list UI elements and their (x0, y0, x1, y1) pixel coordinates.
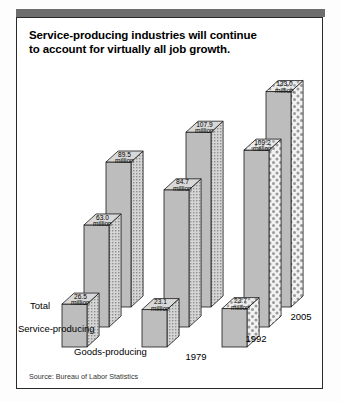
year-label-1992: 1992 (245, 333, 266, 344)
bar-unit-label: million (195, 127, 214, 134)
bar-front-face (142, 310, 167, 347)
bar-unit-label: million (93, 220, 112, 227)
bar-side-face (269, 139, 281, 327)
source-note: Source: Bureau of Labor Statistics (29, 372, 138, 381)
chart-page: Service-producing industries will contin… (0, 0, 341, 402)
bar-unit-label: million (275, 87, 294, 94)
year-label-1979: 1979 (185, 351, 206, 362)
row-label-1: Service-producing (18, 323, 95, 334)
row-label-2: Goods-producing (74, 346, 147, 357)
bar-unit-label: million (115, 157, 134, 164)
bar-unit-label: million (151, 305, 170, 312)
chart-svg: 133.0million109.2million23.7million107.9… (16, 17, 323, 389)
bar-unit-label: million (71, 299, 90, 306)
bar-chart-3d: 133.0million109.2million23.7million107.9… (16, 17, 323, 389)
bar-unit-label: million (253, 145, 272, 152)
bar-side-face (131, 151, 143, 307)
bar-side-face (291, 81, 303, 307)
row-label-0: Total (30, 300, 50, 311)
bar-front-face (222, 309, 247, 347)
bar-unit-label: million (231, 304, 250, 311)
bar-side-face (109, 214, 121, 327)
header-band (16, 9, 325, 17)
bar-side-face (189, 179, 201, 327)
bar-side-face (211, 121, 223, 307)
bar-unit-label: million (173, 185, 192, 192)
year-label-2005: 2005 (290, 311, 311, 322)
